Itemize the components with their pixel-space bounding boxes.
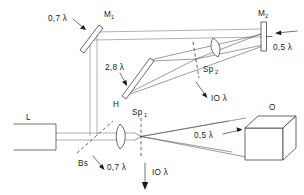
mirror-1-label: M 1 [104, 10, 114, 20]
svg-text:1: 1 [144, 112, 147, 118]
svg-text:2: 2 [265, 13, 268, 19]
svg-text:1: 1 [111, 14, 114, 20]
beam-splitter-label: Bs [78, 159, 88, 168]
hologram-plate [122, 58, 154, 99]
svg-text:0,5 λ: 0,5 λ [194, 131, 214, 140]
svg-text:Sp: Sp [203, 65, 214, 74]
annotation-sp2: IO λ [196, 82, 228, 103]
svg-text:Sp: Sp [132, 108, 143, 117]
svg-text:2,8 λ: 2,8 λ [105, 63, 125, 72]
annotation-bs: 0,7 λ [93, 156, 127, 172]
annotation-sp1: IO λ [142, 163, 169, 190]
svg-text:0,7 λ: 0,7 λ [48, 14, 68, 23]
annotation-m2: 0,5 λ [273, 31, 297, 53]
annotation-object: 0,5 λ [194, 127, 243, 140]
beam-m1-to-m2 [93, 29, 263, 40]
lens-lower [116, 124, 125, 149]
beam-m2-to-sp2 [196, 33, 263, 59]
svg-text:IO λ: IO λ [152, 168, 169, 177]
svg-text:2: 2 [215, 69, 218, 75]
svg-text:0,5 λ: 0,5 λ [273, 43, 293, 52]
mirror-2-plate [261, 22, 272, 51]
lens-upper [211, 38, 220, 57]
svg-text:IO λ: IO λ [211, 94, 228, 103]
beam-bs-to-m1 [90, 33, 97, 136]
annotation-h: 2,8 λ [105, 63, 127, 86]
svg-text:0,7 λ: 0,7 λ [107, 163, 127, 172]
optical-diagram: L Bs M 1 M 2 H [0, 0, 304, 195]
object-label: O [269, 103, 276, 112]
annotation-m1: 0,7 λ [48, 14, 86, 30]
beam-bs-to-object [135, 118, 246, 157]
laser-body [14, 124, 56, 150]
beam-splitter-plate [77, 121, 113, 153]
optics-schematic-canvas: L Bs M 1 M 2 H [0, 0, 304, 195]
object-cube [245, 116, 296, 160]
laser-label: L [26, 113, 31, 122]
spatial-filter-1-label: Sp 1 [132, 108, 147, 118]
hologram-label: H [113, 100, 119, 109]
mirror-2-label: M 2 [258, 9, 268, 19]
spatial-filter-2-label: Sp 2 [203, 65, 218, 75]
